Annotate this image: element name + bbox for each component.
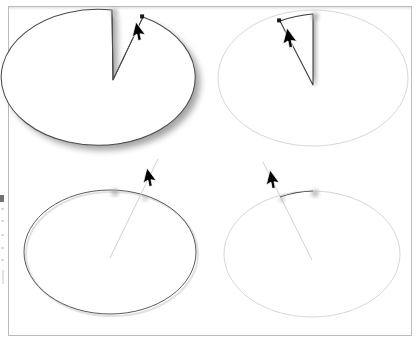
panel-top-right[interactable]: [218, 10, 408, 146]
wedge-slice-outline[interactable]: [280, 14, 313, 85]
panel-bottom-right[interactable]: [224, 162, 400, 317]
panel-top-left[interactable]: [1, 7, 195, 145]
pie-body-with-notch[interactable]: [1, 9, 195, 145]
handle-dark-bottom-left[interactable]: [140, 193, 144, 197]
panel-bottom-left[interactable]: [24, 159, 198, 316]
handle-light-top-right[interactable]: [310, 11, 315, 16]
handle-dark-top-right[interactable]: [277, 18, 281, 22]
handle-dark-top-left[interactable]: [140, 14, 144, 18]
figure-canvas: [0, 0, 418, 342]
panels-vector-layer: [0, 0, 418, 342]
handle-dark-bottom-right[interactable]: [277, 194, 281, 198]
handle-light-bottom-left[interactable]: [110, 187, 115, 192]
handle-light-bottom-right[interactable]: [310, 188, 315, 193]
ellipse-faded-bottom-right[interactable]: [224, 191, 400, 317]
handle-light-top-left[interactable]: [109, 7, 114, 12]
